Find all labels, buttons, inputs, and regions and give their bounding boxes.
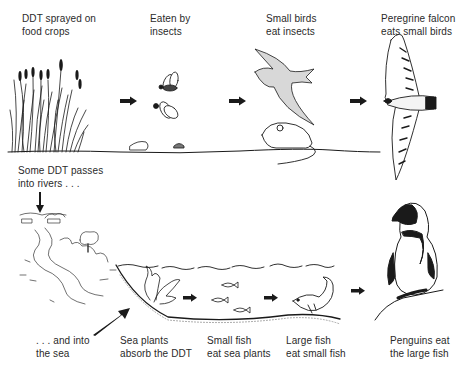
label-falcon: Peregrine falcon eats small birds [381, 12, 455, 38]
label-insects: Eaten by insects [150, 12, 190, 38]
insects-icon [130, 71, 184, 150]
label-small-birds: Small birds eat insects [266, 12, 317, 38]
river-icon [20, 213, 116, 304]
arrow-icon [183, 287, 365, 302]
label-crops: DDT sprayed on food crops [22, 12, 96, 38]
small-bird-icon [255, 49, 314, 125]
label-penguins: Penguins eat the large fish [390, 334, 450, 360]
crops-icon [10, 59, 88, 152]
down-arrow-icon [36, 192, 44, 213]
sea-arrow-icon [93, 308, 130, 336]
label-rivers: Some DDT passes into rivers . . . [18, 164, 103, 190]
small-fish-icon [212, 282, 250, 313]
penguin-icon [375, 203, 443, 320]
sea-icon [116, 264, 340, 324]
label-small-fish: Small fish eat sea plants [207, 334, 271, 360]
falcon-icon [384, 34, 436, 180]
label-sea: . . . and into the sea [36, 334, 90, 360]
sea-plants-icon [145, 266, 180, 304]
label-sea-plants: Sea plants absorb the DDT [120, 334, 192, 360]
ground-line [8, 149, 380, 153]
mouse-icon [262, 123, 316, 164]
large-fish-icon [293, 277, 333, 313]
label-large-fish: Large fish eat small fish [286, 334, 346, 360]
